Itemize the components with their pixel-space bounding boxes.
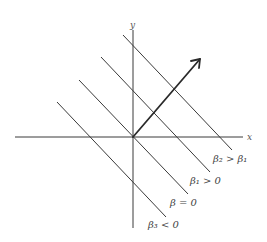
label-beta0: β = 0 [169, 197, 198, 208]
gradient-arrow-icon [133, 59, 200, 137]
level-lines-diagram: x y β₂ > β₁ β₁ > 0 β = 0 β₃ < 0 [0, 0, 267, 242]
label-beta2: β₂ > β₁ [212, 153, 247, 164]
y-axis-label: y [129, 20, 136, 30]
label-beta3: β₃ < 0 [147, 219, 180, 230]
label-beta1: β₁ > 0 [189, 175, 222, 186]
level-line-beta2 [123, 35, 232, 150]
level-line-beta1 [101, 57, 210, 172]
level-line-beta3 [57, 102, 166, 217]
x-axis-label: x [247, 132, 252, 142]
